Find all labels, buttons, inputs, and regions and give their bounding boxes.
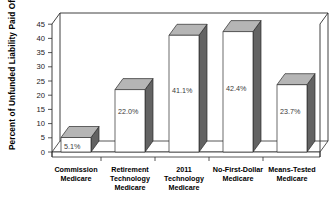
bar-side-face (307, 74, 315, 152)
svg-text:Medicare: Medicare (168, 183, 199, 192)
y-tick-label: 40 (37, 34, 45, 43)
svg-text:Retirement: Retirement (111, 165, 149, 174)
bar-value-label: 42.4% (226, 84, 247, 93)
svg-text:Commission: Commission (54, 165, 97, 174)
y-tick-10: 10 (37, 119, 52, 128)
x-category-label: Commission Medicare (54, 165, 97, 183)
bar-group[interactable]: 5.1% (61, 127, 99, 153)
svg-text:Medicare: Medicare (222, 174, 253, 183)
frame-depth-line-topright (320, 13, 328, 24)
bar-value-label: 5.1% (64, 142, 81, 151)
bar-value-label: 23.7% (280, 107, 301, 116)
y-tick-0: 0 (41, 148, 52, 157)
svg-text:Medicare: Medicare (114, 183, 145, 192)
x-category-label: Retirement Technology Medicare (110, 165, 150, 192)
y-tick-label: 0 (41, 148, 45, 157)
svg-text:Technology: Technology (110, 174, 150, 183)
svg-text:2011: 2011 (176, 165, 192, 174)
bar-value-label: 22.0% (118, 107, 139, 116)
bar-side-face (145, 79, 153, 152)
y-tick-25: 25 (37, 77, 52, 86)
y-tick-label: 20 (37, 91, 45, 100)
y-tick-label: 25 (37, 77, 45, 86)
y-tick-15: 15 (37, 105, 52, 114)
x-category-label: No-First-Dollar Medicare (213, 165, 264, 183)
svg-text:Medicare: Medicare (276, 174, 307, 183)
bar-group[interactable]: 41.1% (169, 24, 207, 152)
bar-group[interactable]: 23.7% (277, 74, 315, 152)
svg-text:Means-Tested: Means-Tested (268, 165, 315, 174)
y-axis-title: Percent of Unfunded Liability Paid Off (8, 0, 17, 150)
svg-text:Medicare: Medicare (60, 174, 91, 183)
frame-depth-line-topleft (52, 13, 60, 24)
y-tick-5: 5 (41, 133, 52, 142)
y-tick-label: 30 (37, 62, 45, 71)
bar-side-face (253, 21, 261, 152)
bar-front-face (115, 90, 145, 152)
y-tick-45: 45 (37, 20, 52, 29)
bar-value-label: 41.1% (172, 86, 193, 95)
chart-container: 0 5 10 15 20 25 (0, 0, 336, 223)
bar-chart-3d: 0 5 10 15 20 25 (0, 0, 336, 223)
y-tick-label: 5 (41, 133, 45, 142)
y-tick-label: 10 (37, 119, 45, 128)
y-tick-label: 15 (37, 105, 45, 114)
bar-side-face (199, 24, 207, 152)
y-tick-label: 45 (37, 20, 45, 29)
y-axis-ticks: 0 5 10 15 20 25 (37, 20, 52, 157)
y-tick-20: 20 (37, 91, 52, 100)
floor-front-face (52, 152, 320, 157)
bar-group[interactable]: 22.0% (115, 79, 153, 152)
y-tick-40: 40 (37, 34, 52, 43)
svg-text:Technology: Technology (164, 174, 204, 183)
y-tick-30: 30 (37, 62, 52, 71)
x-axis-ticks (101, 157, 263, 161)
x-category-label: Means-Tested Medicare (268, 165, 315, 183)
x-axis-labels: Commission Medicare Retirement Technolog… (54, 165, 315, 192)
bar-group[interactable]: 42.4% (223, 21, 261, 152)
y-tick-label: 35 (37, 48, 45, 57)
bar-front-face (277, 85, 307, 152)
y-tick-35: 35 (37, 48, 52, 57)
x-category-label: 2011 Technology Medicare (164, 165, 204, 192)
svg-text:No-First-Dollar: No-First-Dollar (213, 165, 264, 174)
